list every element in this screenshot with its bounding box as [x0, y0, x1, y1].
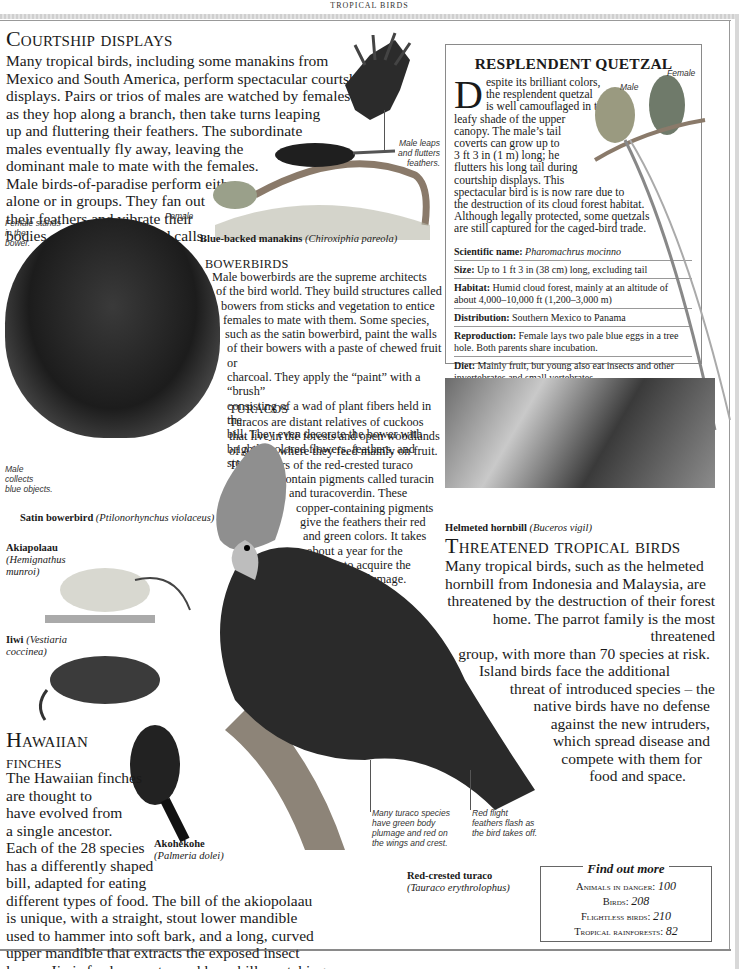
- finches-line: Each of the 28 species: [6, 839, 386, 857]
- finches-line: different types of food. The bill of the…: [6, 892, 386, 910]
- threatened-line: against the new intruders,: [445, 715, 715, 733]
- threatened-line: threat of introduced species – the: [445, 680, 715, 698]
- dropcap: D: [454, 79, 483, 111]
- red-feathers-annotation: Red flight feathers flash as the bird ta…: [472, 808, 552, 838]
- threatened-line: hornbill from Indonesia and Malaysia, ar…: [445, 575, 715, 593]
- threatened-heading: Threatened tropical birds: [445, 534, 680, 558]
- male-leaps-annotation: Male leaps and flutters feathers.: [388, 138, 440, 168]
- red-crested-turaco-caption: Red-crested turaco (Tauraco erythrolophu…: [407, 870, 510, 894]
- female-stands-annotation: Female stands in the bower.: [5, 218, 61, 248]
- satin-bowerbird-photo: [5, 218, 220, 438]
- finches-line: bill, adapted for eating: [6, 874, 386, 892]
- top-rule: [0, 14, 739, 19]
- finches-line: upper mandible that extracts the exposed…: [6, 944, 386, 962]
- finches-line: a single ancestor.: [6, 822, 386, 840]
- finches-line: have evolved from: [6, 804, 386, 822]
- threatened-line: Island birds face the additional: [445, 662, 715, 680]
- running-head: TROPICAL BIRDS: [0, 1, 739, 10]
- finches-line: are thought to: [6, 787, 386, 805]
- find-out-more-link[interactable]: Animals in danger: 100: [541, 879, 711, 894]
- bowerbirds-line: charcoal. They apply the “paint” with a …: [212, 370, 447, 399]
- manakins-caption: Blue-backed manakins (Chiroxiphia pareol…: [200, 233, 397, 245]
- hawaiian-finches-body: The Hawaiian finches are thought to have…: [6, 769, 386, 969]
- bowerbirds-line: bowers from sticks and vegetation to ent…: [212, 299, 447, 313]
- threatened-line: food and space.: [445, 767, 715, 785]
- threatened-body: Many tropical birds, such as the helmete…: [445, 557, 715, 785]
- threatened-line: threatened by the destruction of their f…: [445, 592, 715, 610]
- find-out-more-list: Animals in danger: 100 Birds: 208 Flight…: [541, 879, 711, 939]
- threatened-line: native birds have no defense: [445, 697, 715, 715]
- threatened-line: Many tropical birds, such as the helmete…: [445, 557, 715, 575]
- satin-bowerbird-caption: Satin bowerbird (Ptilonorhynchus violace…: [20, 512, 214, 524]
- finches-line: used to hammer into soft bark, and a lon…: [6, 927, 386, 945]
- quetzal-male-annotation: Male: [620, 82, 638, 92]
- threatened-line: home. The parrot family is the most thre…: [445, 610, 715, 645]
- turacos-line: Turacos are distant relatives of cuckoos: [229, 415, 444, 429]
- akiapolaau-label: Akiapolaau (Hemignathus munroi): [6, 542, 66, 578]
- annotation-leader: [384, 110, 385, 150]
- find-out-more-link[interactable]: Birds: 208: [541, 894, 711, 909]
- find-out-more-box: Find out more Animals in danger: 100 Bir…: [540, 866, 712, 942]
- bowerbirds-line: such as the satin bowerbird, paint the w…: [212, 327, 447, 341]
- finches-line: is unique, with a straight, stout lower …: [6, 909, 386, 927]
- bowerbirds-line: of their bowers with a paste of chewed f…: [212, 341, 447, 370]
- manakins-illustration: [195, 25, 435, 240]
- find-out-more-title: Find out more: [583, 861, 668, 876]
- bowerbirds-line: of the bird world. They build structures…: [212, 284, 447, 298]
- threatened-line: compete with them for: [445, 750, 715, 768]
- find-out-more-link[interactable]: Flightless birds: 210: [541, 909, 711, 924]
- male-collects-annotation: Male collects blue objects.: [5, 464, 53, 494]
- quetzal-female-annotation: Female: [667, 68, 695, 78]
- finches-line: The Hawaiian finches: [6, 769, 386, 787]
- female-annotation: Female: [165, 211, 193, 221]
- courtship-heading: Courtship displays: [6, 27, 173, 51]
- bowerbirds-line: Male bowerbirds are the supreme architec…: [212, 270, 447, 284]
- threatened-line: which spread disease and: [445, 732, 715, 750]
- finches-line: has a differently shaped: [6, 857, 386, 875]
- frame-top-line: [0, 20, 731, 21]
- threatened-line: group, with more than 70 species at risk…: [445, 645, 715, 663]
- find-out-more-link[interactable]: Tropical rainforests: 82: [541, 924, 711, 939]
- finches-line: larvae. Iiwis feed on nectar and have bi…: [6, 962, 386, 969]
- iiwi-label: Iiwi (Vestiaria coccinea): [6, 634, 67, 658]
- bowerbirds-line: females to mate with them. Some species,: [212, 313, 447, 327]
- helmeted-hornbill-photo: [445, 378, 715, 488]
- hawaiian-finches-heading-1: Hawaiian: [6, 728, 88, 752]
